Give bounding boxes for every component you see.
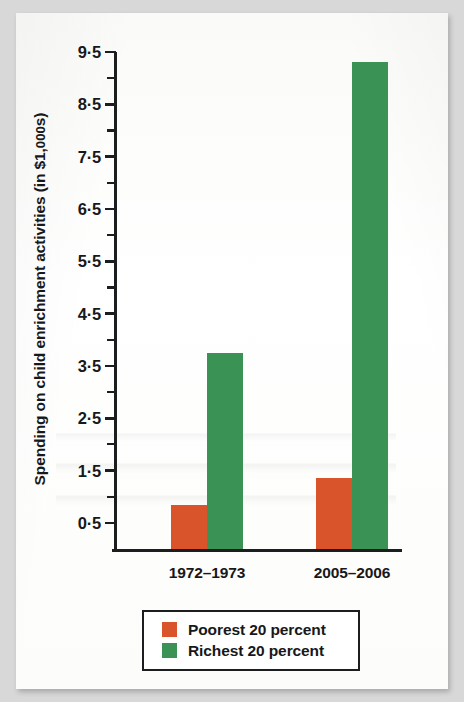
y-axis-minor-tick [107,496,116,498]
y-axis-minor-tick [107,234,116,236]
legend-label-richest: Richest 20 percent [188,642,324,660]
y-axis-tick-label: 7·5 [78,147,101,166]
chart-legend: Poorest 20 percent Richest 20 percent [142,610,360,671]
y-axis-minor-tick [107,391,116,393]
list-item: Poorest 20 percent [144,619,358,640]
y-axis-title-main: Spending on child enrichment activities … [31,148,48,485]
y-axis-major-tick [105,103,116,106]
y-axis-tick-label: 6·5 [78,199,101,218]
y-axis-tick-label: 9·5 [78,43,101,62]
y-axis-major-tick [105,260,116,263]
x-axis-tick-label: 1972–1973 [169,564,246,582]
y-axis-tick-label: 5·5 [78,252,101,271]
bar-poorest-0 [171,505,207,549]
y-axis-major-tick [105,522,116,525]
y-axis-major-tick [105,155,116,158]
y-axis-major-tick [105,469,116,472]
y-axis-major-tick [105,312,116,315]
y-axis-tick-label: 4·5 [78,304,101,323]
bar-richest-1 [352,62,388,549]
y-axis-title-smallcap: 000 [33,126,48,148]
plot-area: 0·51·52·53·54·55·56·57·58·59·5 1972–1973… [114,39,402,552]
y-axis-major-tick [105,365,116,368]
legend-label-poorest: Poorest 20 percent [188,621,326,639]
list-item: Richest 20 percent [144,640,358,661]
bar-chart-figure: Spending on child enrichment activities … [16,13,448,689]
x-axis-tick-label: 2005–2006 [314,564,391,582]
bar-poorest-1 [316,478,352,549]
y-axis-minor-tick [107,77,116,79]
scanned-page: Spending on child enrichment activities … [16,13,448,689]
bar-richest-0 [207,353,243,549]
y-axis-line [114,52,117,552]
y-axis-tick-label: 1·5 [78,461,101,480]
y-axis-major-tick [105,208,116,211]
y-axis-major-tick [105,417,116,420]
y-axis-tick-label: 2·5 [78,409,101,428]
legend-swatch-richest-icon [162,643,177,658]
y-axis-title: Spending on child enrichment activities … [31,39,49,559]
y-axis-tick-label: 8·5 [78,95,101,114]
y-axis-tick-label: 3·5 [78,356,101,375]
y-axis-major-tick [105,51,116,54]
y-axis-title-tail: s) [31,113,48,127]
y-axis-minor-tick [107,129,116,131]
y-axis-minor-tick [107,443,116,445]
legend-swatch-poorest-icon [162,622,177,637]
y-axis-minor-tick [107,286,116,288]
y-axis-minor-tick [107,339,116,341]
y-axis-minor-tick [107,182,116,184]
y-axis-tick-label: 0·5 [78,513,101,532]
x-axis-line [112,549,402,552]
